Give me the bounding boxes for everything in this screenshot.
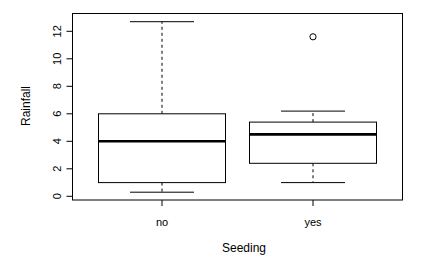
y-tick-label-0: 0: [51, 193, 63, 199]
y-tick-label-6: 6: [51, 111, 63, 117]
box-yes: [250, 122, 377, 163]
box-no: [99, 114, 226, 183]
y-tick-label-12: 12: [51, 25, 63, 37]
x-axis-title: Seeding: [222, 241, 266, 255]
y-tick-label-8: 8: [51, 83, 63, 89]
x-tick-label-no: no: [156, 216, 168, 228]
boxplot-svg: 0 2 4 6 8 10 12 Rainfall no yes Seeding: [0, 0, 421, 272]
boxplot-figure: 0 2 4 6 8 10 12 Rainfall no yes Seeding: [0, 0, 421, 272]
y-tick-label-4: 4: [51, 138, 63, 144]
x-tick-label-yes: yes: [304, 216, 322, 228]
y-axis-title: Rainfall: [19, 86, 33, 126]
y-tick-label-2: 2: [51, 166, 63, 172]
y-tick-label-10: 10: [51, 53, 63, 65]
